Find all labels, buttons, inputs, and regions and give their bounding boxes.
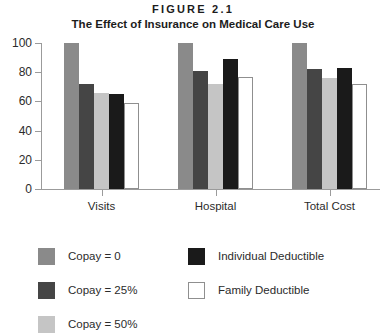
bar [337, 68, 352, 189]
bar [94, 93, 109, 189]
bar [208, 84, 223, 189]
y-axis-tick-label: 80 [0, 66, 32, 78]
bar [292, 43, 307, 189]
y-axis-tick-label: 100 [0, 37, 32, 49]
legend-item: Copay = 50% [38, 316, 137, 333]
y-axis-tick-label: 60 [0, 95, 32, 107]
y-axis-tick-label: 20 [0, 154, 32, 166]
legend-label: Copay = 0 [68, 250, 121, 263]
bar [223, 59, 238, 189]
y-axis-tick [35, 131, 42, 132]
bar [238, 77, 253, 189]
x-axis-category-label: Visits [88, 200, 115, 213]
legend-swatch-icon [38, 316, 55, 333]
bar [193, 71, 208, 189]
legend-item: Family Deductible [188, 282, 309, 299]
legend-label: Copay = 25% [68, 284, 137, 297]
y-axis-tick [35, 160, 42, 161]
x-axis-tick [216, 190, 217, 196]
legend-item: Copay = 25% [38, 282, 137, 299]
bar [178, 43, 193, 189]
legend-label: Individual Deductible [218, 250, 324, 263]
y-axis-tick-label: 0 [0, 183, 32, 195]
y-axis-line [41, 43, 42, 190]
legend-swatch-icon [38, 282, 55, 299]
bar [124, 103, 139, 189]
y-axis-tick [35, 72, 42, 73]
legend-swatch-icon [188, 282, 205, 299]
bar [307, 69, 322, 189]
legend-label: Copay = 50% [68, 318, 137, 331]
x-axis-category-label: Hospital [195, 200, 237, 213]
bar [109, 94, 124, 189]
x-axis-tick [102, 190, 103, 196]
bar [352, 84, 367, 189]
legend-swatch-icon [188, 248, 205, 265]
x-axis-tick [330, 190, 331, 196]
y-axis-tick-label: 40 [0, 125, 32, 137]
y-axis-tick [35, 43, 42, 44]
bar [64, 43, 79, 189]
bar [79, 84, 94, 189]
chart-legend: Copay = 0Copay = 25%Copay = 50%Individua… [0, 240, 386, 335]
page-title: The Effect of Insurance on Medical Care … [0, 17, 386, 31]
figure-title-block: FIGURE 2.1 The Effect of Insurance on Me… [0, 0, 386, 31]
y-axis-tick [35, 101, 42, 102]
figure-number: FIGURE 2.1 [0, 3, 386, 16]
y-axis-tick [35, 189, 42, 190]
legend-item: Copay = 0 [38, 248, 121, 265]
bar-chart: 020406080100 VisitsHospitalTotal Cost [0, 36, 386, 232]
legend-item: Individual Deductible [188, 248, 324, 265]
x-axis-category-label: Total Cost [304, 200, 355, 213]
legend-swatch-icon [38, 248, 55, 265]
legend-label: Family Deductible [218, 284, 309, 297]
bar [322, 78, 337, 189]
